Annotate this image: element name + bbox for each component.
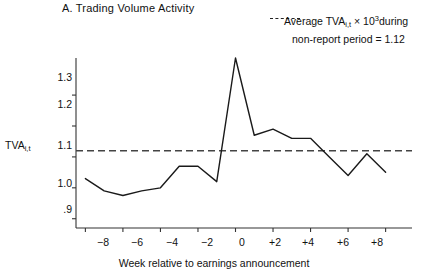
axis-spines [76,58,412,228]
y-axis-ticks [72,95,76,219]
chart-plot-area [0,0,428,276]
data-series-line [85,58,385,196]
x-axis-ticks [85,228,385,232]
figure-panel-a: A. Trading Volume Activity Average TVAi,… [0,0,428,276]
